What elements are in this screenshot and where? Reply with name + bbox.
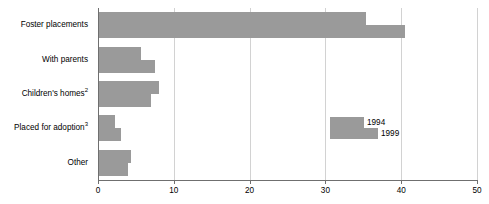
- legend-label-1994: 1994: [367, 118, 385, 127]
- footnote-marker: 3: [85, 122, 88, 128]
- category-axis-labels: Foster placements With parents Children'…: [0, 8, 94, 180]
- x-tick-mark: [477, 180, 478, 184]
- bar-1999-placed-for-adoption: [98, 128, 121, 141]
- x-tick-mark: [174, 180, 175, 184]
- bar-1999-other: [98, 163, 128, 176]
- bar-1994-other: [98, 150, 131, 163]
- bar-1994-placed-for-adoption: [98, 115, 115, 128]
- x-tick-label: 20: [245, 186, 254, 195]
- bar-1994-children-s-homes: [98, 81, 159, 94]
- category-label-foster-placements: Foster placements: [0, 20, 88, 30]
- x-tick-label: 10: [169, 186, 178, 195]
- legend-label-1999: 1999: [381, 129, 399, 138]
- plot-area: [98, 8, 477, 180]
- x-tick-mark: [325, 180, 326, 184]
- bar-chart: Foster placements With parents Children'…: [0, 0, 489, 204]
- category-label-childrens-homes: Children's homes2: [0, 89, 88, 99]
- bar-1994-with-parents: [98, 47, 141, 60]
- bar-1999-children-s-homes: [98, 94, 151, 107]
- bar-1994-foster-placements: [98, 12, 366, 25]
- category-label-placed-for-adoption: Placed for adoption3: [0, 123, 88, 133]
- y-axis-line: [98, 8, 99, 181]
- bar-1999-with-parents: [98, 60, 155, 73]
- category-label-other: Other: [0, 158, 88, 168]
- bar-1999-foster-placements: [98, 25, 405, 38]
- x-tick-mark: [98, 180, 99, 184]
- legend-swatch-1994: [330, 117, 364, 128]
- footnote-marker: 2: [85, 87, 88, 93]
- x-tick-label: 0: [96, 186, 101, 195]
- x-axis-line: [98, 180, 477, 181]
- x-tick-mark: [250, 180, 251, 184]
- gridline: [477, 8, 478, 180]
- category-label-with-parents: With parents: [0, 55, 88, 65]
- x-tick-mark: [401, 180, 402, 184]
- x-tick-label: 40: [397, 186, 406, 195]
- x-tick-label: 50: [472, 186, 481, 195]
- legend-swatch-1999: [330, 128, 378, 139]
- x-tick-label: 30: [321, 186, 330, 195]
